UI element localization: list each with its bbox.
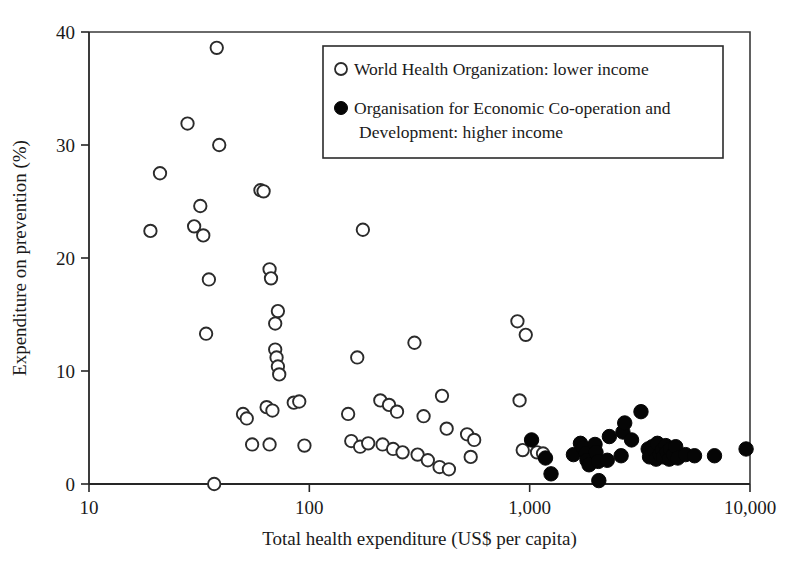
data-point <box>266 404 278 416</box>
data-point <box>396 446 408 458</box>
data-point <box>524 433 538 447</box>
data-point <box>422 454 434 466</box>
x-axis-title: Total health expenditure (US$ per capita… <box>262 528 577 550</box>
data-point <box>513 394 525 406</box>
data-point <box>417 410 429 422</box>
y-tick-label: 0 <box>66 474 76 495</box>
x-tick-label: 10,000 <box>724 497 776 518</box>
data-point <box>436 390 448 402</box>
data-point <box>273 368 285 380</box>
data-point <box>213 139 225 151</box>
legend-marker-filled-circle-icon <box>335 102 348 115</box>
data-point <box>241 412 253 424</box>
data-point <box>181 117 193 129</box>
data-point <box>269 317 281 329</box>
data-point <box>298 439 310 451</box>
data-point <box>265 272 277 284</box>
data-point <box>194 200 206 212</box>
data-point <box>739 442 753 456</box>
data-point <box>272 305 284 317</box>
data-point <box>391 405 403 417</box>
legend-marker-open-circle-icon <box>335 63 347 75</box>
data-point <box>154 167 166 179</box>
data-point <box>197 229 209 241</box>
data-point <box>246 438 258 450</box>
series-oecd-points <box>524 404 753 487</box>
y-tick-label: 10 <box>56 361 75 382</box>
data-point <box>440 422 452 434</box>
y-tick-label: 20 <box>56 248 75 269</box>
data-point <box>624 433 638 447</box>
data-point <box>592 473 606 487</box>
data-point <box>200 328 212 340</box>
data-point <box>465 451 477 463</box>
y-axis-title: Expenditure on prevention (%) <box>9 140 31 376</box>
data-point <box>257 185 269 197</box>
legend: World Health Organization: lower incomeO… <box>323 46 723 158</box>
legend-label-oecd-line2: Development: higher income <box>359 122 563 142</box>
data-point <box>342 408 354 420</box>
data-point <box>600 453 614 467</box>
x-tick-label: 10 <box>80 497 99 518</box>
legend-label-oecd-line1: Organisation for Economic Co-operation a… <box>354 98 671 118</box>
data-point <box>357 224 369 236</box>
data-point <box>602 429 616 443</box>
data-point <box>144 225 156 237</box>
scatter-plot-figure: 101001,00010,000010203040Total health ex… <box>0 0 793 570</box>
y-tick-label: 30 <box>56 135 75 156</box>
data-point <box>208 478 220 490</box>
legend-label-who: World Health Organization: lower income <box>354 59 649 79</box>
data-point <box>687 449 701 463</box>
data-point <box>362 437 374 449</box>
y-tick-label: 40 <box>56 22 75 43</box>
data-point <box>351 351 363 363</box>
data-point <box>511 315 523 327</box>
data-point <box>618 416 632 430</box>
data-point <box>443 463 455 475</box>
data-point <box>614 449 628 463</box>
data-point <box>293 395 305 407</box>
chart-canvas: 101001,00010,000010203040Total health ex… <box>0 0 793 570</box>
x-tick-label: 100 <box>295 497 324 518</box>
data-point <box>634 404 648 418</box>
data-point <box>520 329 532 341</box>
data-point <box>707 449 721 463</box>
data-point <box>203 273 215 285</box>
data-point <box>538 451 552 465</box>
data-point <box>263 438 275 450</box>
x-tick-label: 1,000 <box>508 497 551 518</box>
data-point <box>544 467 558 481</box>
data-point <box>408 337 420 349</box>
data-point <box>211 42 223 54</box>
data-point <box>468 434 480 446</box>
